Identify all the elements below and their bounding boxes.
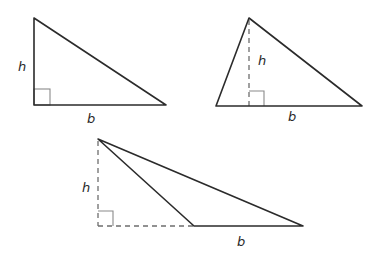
right-angle-marker [249,91,264,106]
height-label: h [18,59,26,74]
right-angle-marker [98,211,113,226]
right-triangle-outline [34,18,166,105]
height-label: h [258,53,266,68]
base-label: b [237,234,245,249]
right-angle-marker [34,89,50,105]
base-label: b [288,109,296,124]
triangle-area-diagram: h b h b h b [0,0,380,258]
acute-triangle-outline [216,18,362,106]
obtuse-triangle: h b [82,139,303,249]
right-triangle: h b [18,18,166,126]
base-label: b [87,111,95,126]
acute-triangle: h b [216,18,362,124]
obtuse-triangle-outline [98,139,303,226]
height-label: h [82,180,90,195]
